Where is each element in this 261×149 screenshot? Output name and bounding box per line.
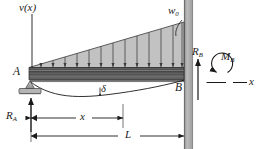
beam-body: [29, 68, 184, 82]
dimension-L-label: L: [125, 129, 131, 140]
R-A-sub: A: [13, 115, 17, 122]
x-axis-label: x: [249, 76, 254, 87]
v-of-x-label: v(x): [19, 2, 36, 13]
M-B-base: M: [221, 50, 230, 62]
R-B-sub: B: [199, 51, 203, 58]
fixed-wall: [184, 0, 193, 149]
point-A-label: A: [13, 66, 20, 78]
R-B-label: RB: [192, 46, 203, 57]
M-B-label: MB: [221, 51, 234, 62]
R-A-label: RA: [6, 110, 17, 121]
dimension-x-label: x: [80, 111, 85, 122]
point-B-label: B: [175, 82, 182, 94]
R-A-base: R: [6, 109, 13, 121]
beam-diagram-figure: v(x) w0 A B RA RB MB δ x x L: [0, 0, 261, 149]
dimension-line-x: [31, 100, 123, 128]
diagram-canvas: [0, 0, 261, 149]
deflection-curve: [30, 80, 184, 96]
support-A: [19, 81, 41, 94]
R-B-base: R: [192, 45, 199, 57]
w-zero-label: w0: [168, 5, 179, 16]
delta-label: δ: [101, 84, 106, 95]
M-B-sub: B: [230, 56, 234, 63]
w-zero-sub: 0: [175, 10, 178, 17]
dimension-line-L: [31, 124, 184, 142]
